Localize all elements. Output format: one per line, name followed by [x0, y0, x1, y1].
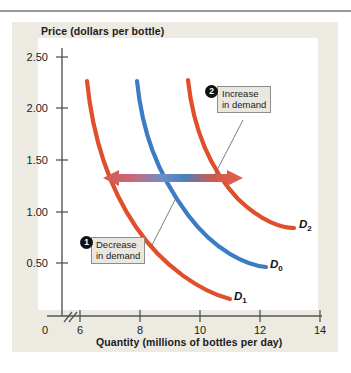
y-tick-label-2-50: 2.50 [14, 51, 48, 63]
x-tick-label-14: 14 [309, 324, 331, 336]
y-tick-label-1-50: 1.50 [14, 154, 48, 166]
x-tick-label-8: 8 [129, 324, 151, 336]
callout-increase-line1: Increase [222, 89, 266, 100]
x-tick-label-10: 10 [189, 324, 211, 336]
callout-badge-1: 1 [80, 236, 93, 249]
x-axis-break-mark [64, 312, 77, 322]
y-tick-label-0: 0 [14, 324, 48, 336]
y-tick-label-2-00: 2.00 [14, 102, 48, 114]
callout-decrease-in-demand: Decrease in demand [91, 237, 145, 264]
curve-label-d2: D2 [299, 218, 312, 233]
callout-increase-line2: in demand [222, 100, 266, 111]
y-tick-label-0-50: 0.50 [14, 257, 48, 269]
curve-label-d2-sub: 2 [307, 224, 311, 233]
x-axis-title: Quantity (millions of bottles per day) [96, 336, 282, 348]
curve-label-d0-sub: 0 [278, 264, 282, 273]
callout-decrease-line1: Decrease [96, 240, 140, 251]
curve-label-d0: D0 [270, 258, 283, 273]
y-axis-title: Price (dollars per bottle) [41, 25, 164, 37]
y-tick-label-1-00: 1.00 [14, 206, 48, 218]
demand-shift-arrow [103, 170, 243, 186]
x-tick-label-12: 12 [249, 324, 271, 336]
callout-decrease-line2: in demand [96, 251, 140, 262]
callout-increase-in-demand: Increase in demand [217, 86, 271, 113]
callout-badge-2: 2 [205, 85, 218, 98]
demand-curve-d1 [87, 81, 230, 299]
chart-graphic [0, 0, 351, 373]
x-tick-label-6: 6 [69, 324, 91, 336]
curve-label-d1: D1 [234, 290, 247, 305]
curve-label-d1-sub: 1 [242, 296, 246, 305]
